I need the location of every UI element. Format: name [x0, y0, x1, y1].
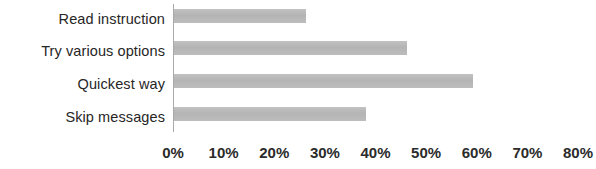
x-tick-label: 0% — [162, 144, 184, 162]
x-tick-label: 10% — [209, 144, 239, 162]
bar-try-various-options — [174, 41, 407, 55]
bar-chart: Read instruction Try various options Qui… — [0, 0, 596, 169]
x-tick-label: 60% — [462, 144, 492, 162]
bar-read-instruction — [174, 9, 306, 23]
category-label: Read instruction — [0, 12, 165, 26]
plot-area: Read instruction Try various options Qui… — [0, 0, 596, 140]
x-tick-label: 30% — [310, 144, 340, 162]
x-tick-label: 80% — [563, 144, 593, 162]
bar-fill — [174, 9, 306, 23]
bar-fill — [174, 107, 366, 121]
x-axis: 0% 10% 20% 30% 40% 50% 60% 70% 80% — [0, 140, 596, 169]
x-tick-label: 70% — [512, 144, 542, 162]
bar-fill — [174, 74, 473, 88]
bar-quickest-way — [174, 74, 473, 88]
category-label: Skip messages — [0, 110, 165, 124]
category-label: Quickest way — [0, 77, 165, 91]
x-tick-label: 50% — [411, 144, 441, 162]
bar-skip-messages — [174, 107, 366, 121]
category-label: Try various options — [0, 44, 165, 58]
x-tick-label: 20% — [259, 144, 289, 162]
bar-fill — [174, 41, 407, 55]
x-tick-label: 40% — [360, 144, 390, 162]
